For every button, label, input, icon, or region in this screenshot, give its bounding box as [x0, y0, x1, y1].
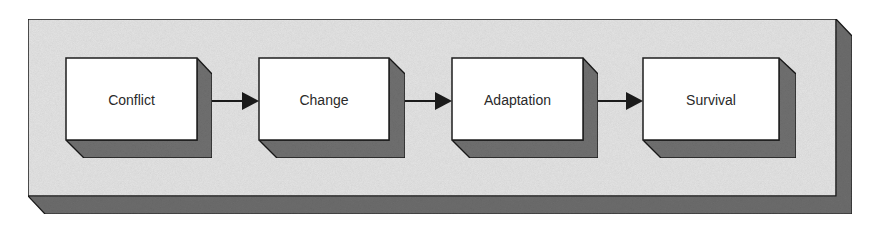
- node-survival: Survival: [643, 58, 796, 158]
- node-label: Survival: [686, 92, 736, 108]
- node-label: Conflict: [108, 92, 155, 108]
- node-adaptation: Adaptation: [452, 58, 598, 158]
- node-label: Adaptation: [484, 92, 551, 108]
- node-conflict: Conflict: [66, 58, 212, 158]
- node-label: Change: [299, 92, 348, 108]
- node-change: Change: [259, 58, 405, 158]
- flow-diagram: Conflict Change Adaptation Survival: [0, 0, 879, 231]
